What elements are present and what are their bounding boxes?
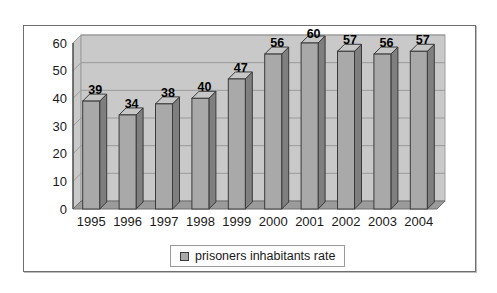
bar	[265, 54, 282, 209]
bar	[228, 79, 245, 209]
bar	[338, 51, 355, 209]
bar-side-face	[245, 72, 252, 209]
bar-side-face	[173, 97, 180, 209]
y-axis-label: 20	[53, 146, 67, 161]
legend: prisoners inhabitants rate	[170, 245, 345, 267]
y-axis-label: 10	[53, 174, 67, 189]
bar	[410, 51, 427, 209]
y-axis-label: 50	[53, 63, 67, 78]
bar-side-face	[318, 36, 325, 209]
bar-value-label: 56	[379, 36, 393, 50]
bar	[119, 115, 136, 209]
legend-swatch-icon	[180, 252, 189, 261]
bar-value-label: 56	[270, 36, 284, 50]
y-axis-label: 30	[53, 119, 67, 134]
x-axis-label: 2001	[295, 214, 324, 229]
bar	[156, 104, 173, 209]
bar-value-label: 38	[161, 86, 175, 100]
bar-side-face	[355, 44, 362, 209]
bar-side-face	[391, 47, 398, 209]
bar-side-face	[100, 94, 107, 209]
bar-value-label: 39	[88, 83, 102, 97]
bar-side-face	[427, 44, 434, 209]
bar	[83, 101, 100, 209]
bar-value-label: 57	[416, 33, 430, 47]
bar-value-label: 57	[343, 33, 357, 47]
bar-side-face	[209, 91, 216, 209]
bar-chart-plot: 0102030405060393438404756605756571995199…	[24, 26, 475, 271]
bar-value-label: 40	[197, 80, 211, 94]
legend-label: prisoners inhabitants rate	[195, 250, 335, 263]
bar	[374, 54, 391, 209]
x-axis-label: 2004	[404, 214, 433, 229]
y-axis-label: 0	[60, 202, 67, 217]
x-axis-label: 1997	[150, 214, 179, 229]
chart-frame: 0102030405060393438404756605756571995199…	[23, 25, 476, 272]
bar-value-label: 60	[307, 27, 321, 41]
bar-side-face	[282, 47, 289, 209]
y-axis-label: 60	[53, 36, 67, 51]
x-axis-label: 1999	[222, 214, 251, 229]
x-axis-label: 1995	[77, 214, 106, 229]
x-axis-label: 1998	[186, 214, 215, 229]
bar-value-label: 34	[125, 97, 139, 111]
bar-value-label: 47	[234, 61, 248, 75]
x-axis-label: 2003	[368, 214, 397, 229]
chart-background: 0102030405060393438404756605756571995199…	[0, 0, 497, 293]
bar	[192, 98, 209, 209]
bar	[301, 43, 318, 209]
x-axis-label: 1996	[113, 214, 142, 229]
x-axis-label: 2000	[259, 214, 288, 229]
y-axis-label: 40	[53, 91, 67, 106]
x-axis-label: 2002	[332, 214, 361, 229]
bar-side-face	[136, 108, 143, 209]
